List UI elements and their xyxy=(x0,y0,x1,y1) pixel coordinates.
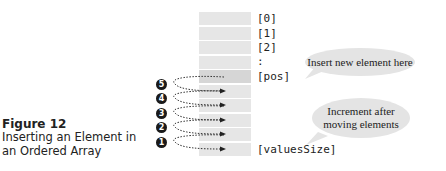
step-badge-1: 1 xyxy=(156,137,167,148)
arrowhead-icon xyxy=(220,103,226,108)
arrowhead-icon xyxy=(220,118,226,123)
step-badge-5: 5 xyxy=(156,79,167,90)
increment-callout-line1: Increment after xyxy=(327,105,394,118)
increment-callout-line2: moving elements xyxy=(323,118,398,131)
move-arrow-3 xyxy=(174,106,224,120)
insert-callout-text: Insert new element here xyxy=(307,56,412,69)
move-arrow-2 xyxy=(174,120,224,134)
increment-callout-tail xyxy=(306,132,328,145)
step-badge-3: 3 xyxy=(156,108,167,119)
move-arrow-5 xyxy=(174,76,224,91)
arrowhead-icon xyxy=(220,132,226,137)
move-arrow-4 xyxy=(174,91,224,105)
step-badge-2: 2 xyxy=(156,122,167,133)
arrowhead-icon xyxy=(220,147,226,152)
step-badge-4: 4 xyxy=(156,93,167,104)
arrows-layer xyxy=(0,0,446,171)
move-arrow-1 xyxy=(174,135,224,149)
insert-callout: Insert new element here xyxy=(305,48,415,76)
increment-callout: Increment after moving elements xyxy=(312,98,410,138)
arrowhead-icon xyxy=(220,89,226,94)
